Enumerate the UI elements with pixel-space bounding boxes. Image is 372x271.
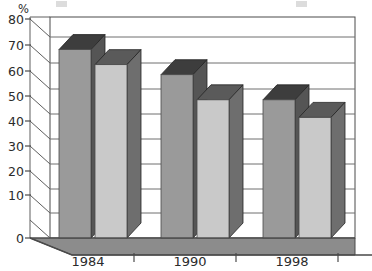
x-axis-label-1998: 1998 <box>275 254 308 269</box>
y-axis-label-70: 70 <box>8 38 24 53</box>
bar-group-1998 <box>263 85 345 238</box>
bar-1990-series1-front <box>161 75 193 238</box>
bar-group-1984 <box>59 35 141 238</box>
x-axis-label-1990: 1990 <box>173 254 206 269</box>
bar-1984-series1-front <box>59 50 91 238</box>
chart-canvas: % 80 70 60 50 40 30 20 10 0 <box>0 0 372 271</box>
y-axis-label-60: 60 <box>8 64 24 79</box>
bar-1984-series2-side <box>127 50 141 238</box>
y-axis-label-80: 80 <box>8 12 24 27</box>
bar-chart: % 80 70 60 50 40 30 20 10 0 <box>0 0 372 271</box>
axis-depth-lines <box>30 17 50 238</box>
bar-1998-series2[interactable] <box>299 102 345 238</box>
legend-remnant-strip <box>0 0 372 7</box>
y-axis-label-30: 30 <box>8 139 24 154</box>
legend-swatch-series2 <box>296 1 307 7</box>
bar-1990-series2-front <box>197 100 229 238</box>
y-axis-label-0: 0 <box>16 231 24 246</box>
y-axis-label-40: 40 <box>8 114 24 129</box>
bar-1990-series2-side <box>229 85 243 238</box>
bar-1984-series2[interactable] <box>95 50 141 238</box>
y-axis-label-10: 10 <box>8 188 24 203</box>
bar-1998-series2-front <box>299 117 331 238</box>
bar-group-1990 <box>161 60 243 238</box>
x-axis-label-1984: 1984 <box>71 254 104 269</box>
legend-swatch-series1 <box>56 1 67 7</box>
y-axis-label-50: 50 <box>8 89 24 104</box>
bar-1990-series2[interactable] <box>197 85 243 238</box>
bar-1984-series2-front <box>95 65 127 238</box>
y-axis-label-20: 20 <box>8 164 24 179</box>
plot-floor <box>30 238 355 255</box>
bar-1998-series1-front <box>263 100 295 238</box>
bar-1998-series2-side <box>331 102 345 238</box>
